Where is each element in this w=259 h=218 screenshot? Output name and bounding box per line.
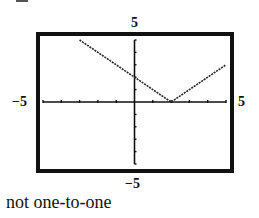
caption: not one-to-one bbox=[6, 193, 111, 211]
axes bbox=[43, 40, 226, 164]
x-max-label: 5 bbox=[238, 95, 245, 109]
plot-line bbox=[80, 40, 226, 102]
x-min-label: −5 bbox=[12, 95, 27, 109]
y-max-label: 5 bbox=[131, 16, 138, 30]
y-min-label: −5 bbox=[125, 177, 140, 191]
